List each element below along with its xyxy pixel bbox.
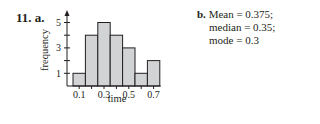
part-b-answer: b. Mean = 0.375; median = 0.35; mode = 0… <box>197 8 275 47</box>
y-axis-arrow <box>65 10 70 16</box>
x-axis-label: time <box>108 93 127 104</box>
part-b-letter: b. <box>197 8 206 20</box>
mode-text: mode = 0.3 <box>197 34 275 47</box>
bar-0.6 <box>135 73 147 86</box>
y-tick-label-1: 1 <box>56 68 61 79</box>
y-axis-label: frequency <box>39 28 50 71</box>
x-tick-label-0.1: 0.1 <box>73 89 86 100</box>
bar-0.2 <box>85 35 97 86</box>
bar-0.1 <box>73 73 85 86</box>
y-tick-label-5: 5 <box>56 17 61 28</box>
bar-0.4 <box>110 35 122 86</box>
bar-0.7 <box>147 61 159 86</box>
bar-0.5 <box>123 48 135 86</box>
median-text: median = 0.35; <box>197 21 275 34</box>
y-tick-label-3: 3 <box>56 42 61 53</box>
x-tick-label-0.7: 0.7 <box>147 89 160 100</box>
bar-0.3 <box>98 23 110 87</box>
mean-text: Mean = 0.375; <box>209 8 274 20</box>
